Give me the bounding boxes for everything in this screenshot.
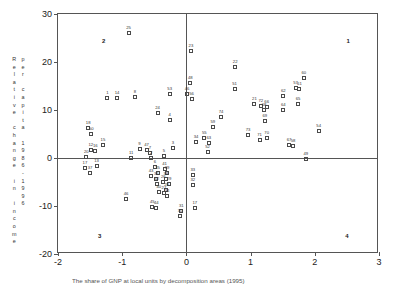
data-point-label: 21 xyxy=(252,97,257,101)
data-point xyxy=(281,94,285,98)
data-point xyxy=(168,92,172,96)
y-axis-title-char: i xyxy=(14,94,15,102)
y-axis-title-char: p xyxy=(22,56,25,64)
plot-area: -20-100102030 -2-10123 1234 252322604851… xyxy=(57,13,378,253)
y-axis-title-char: i xyxy=(14,200,15,208)
data-point-label: 40 xyxy=(156,184,161,188)
x-tick-label: 2 xyxy=(312,257,317,267)
data-point xyxy=(133,95,137,99)
y-axis-title-char: n xyxy=(13,185,16,193)
y-tick xyxy=(54,110,58,111)
data-point xyxy=(190,97,194,101)
y-axis-title-char: c xyxy=(22,86,25,94)
data-point-label: 6 xyxy=(154,160,156,164)
y-axis-title-char: 8 xyxy=(22,155,25,163)
data-point xyxy=(233,65,237,69)
data-point-label: 53 xyxy=(167,86,172,90)
data-point xyxy=(115,96,119,100)
y-axis-title: Relative change in income per capita 198… xyxy=(12,56,42,261)
data-point-label: 60 xyxy=(302,71,307,75)
quadrant-label: 4 xyxy=(345,233,348,239)
y-axis-title-col2: per capita 1986-1996 xyxy=(22,56,25,261)
data-point-label: 14 xyxy=(115,90,120,94)
y-tick xyxy=(54,62,58,63)
data-point-label: 64 xyxy=(281,103,286,107)
y-axis-title-char: t xyxy=(14,86,16,94)
data-point xyxy=(302,76,306,80)
y-axis-title-char xyxy=(14,193,16,201)
data-point xyxy=(162,154,166,158)
data-point-label: 54 xyxy=(316,124,321,128)
y-axis-title-char: a xyxy=(13,140,16,148)
y-axis-title-char: 6 xyxy=(22,200,25,208)
data-point-label: 69 xyxy=(262,113,267,117)
data-point-label: 65 xyxy=(296,97,301,101)
data-point xyxy=(206,150,210,154)
data-point-label: 32 xyxy=(190,178,195,182)
y-axis-title-char: n xyxy=(13,147,16,155)
x-tick xyxy=(122,252,123,256)
y-tick-label: 30 xyxy=(42,9,52,19)
y-axis-title-char xyxy=(22,79,24,87)
y-axis-title-char xyxy=(14,117,16,125)
y-axis-title-char: 1 xyxy=(22,140,25,148)
y-tick xyxy=(54,158,58,159)
data-point-label: 36 xyxy=(154,171,159,175)
x-tick-label: -1 xyxy=(118,257,126,267)
data-point-label: 22 xyxy=(233,60,238,64)
y-tick-label: -10 xyxy=(39,201,52,211)
data-point xyxy=(89,148,93,152)
y-axis-title-char: l xyxy=(14,71,15,79)
y-tick-label: 10 xyxy=(42,105,52,115)
data-point xyxy=(157,190,161,194)
data-point-label: 44 xyxy=(154,201,159,205)
data-point-label: 16 xyxy=(93,144,98,148)
y-axis-title-char: c xyxy=(13,124,16,132)
y-axis-title-char: r xyxy=(22,71,24,79)
data-point xyxy=(124,197,128,201)
data-point-label: 20 xyxy=(84,150,89,154)
data-point xyxy=(129,156,133,160)
data-point-label: 17 xyxy=(83,161,88,165)
x-tick-label: 0 xyxy=(184,257,189,267)
y-tick-label: 20 xyxy=(42,57,52,67)
data-point-label: 34 xyxy=(194,135,199,139)
y-axis-title-char: e xyxy=(13,162,16,170)
data-point-label: 73 xyxy=(246,128,251,132)
data-point-label: 56 xyxy=(189,92,194,96)
data-point xyxy=(95,164,99,168)
data-point-label: 58 xyxy=(291,138,296,142)
x-tick-label: -2 xyxy=(54,257,62,267)
data-point-label: 24 xyxy=(155,106,160,110)
data-point-label: 70 xyxy=(264,131,269,135)
y-axis-title-char: g xyxy=(13,155,16,163)
y-axis-title-char: e xyxy=(22,64,25,72)
data-point-label: 8 xyxy=(134,89,136,93)
data-point-label: 33 xyxy=(190,168,195,172)
data-point xyxy=(281,108,285,112)
y-tick xyxy=(54,206,58,207)
quadrant-label: 3 xyxy=(98,233,101,239)
data-point-label: 37 xyxy=(88,166,93,170)
data-point-label: 4 xyxy=(169,113,171,117)
data-point xyxy=(317,129,321,133)
data-point-label: 48 xyxy=(188,76,193,80)
data-point xyxy=(138,147,142,151)
data-point xyxy=(191,183,195,187)
y-axis-title-char: i xyxy=(22,109,23,117)
y-axis-title-char: t xyxy=(22,117,24,125)
data-point-label: 50 xyxy=(89,126,94,130)
data-point-label: 49 xyxy=(303,152,308,156)
data-point-label: 5 xyxy=(163,148,165,152)
y-tick xyxy=(54,14,58,15)
data-point xyxy=(127,31,131,35)
data-point-label: 51 xyxy=(232,82,237,86)
y-axis-title-char: 6 xyxy=(22,162,25,170)
figure-caption: The share of GNP at local units by decom… xyxy=(72,277,245,286)
y-axis-title-char: a xyxy=(22,94,25,102)
data-point xyxy=(265,136,269,140)
y-axis-title-char xyxy=(22,132,24,140)
data-point xyxy=(154,206,158,210)
data-point xyxy=(297,87,301,91)
data-point-label: 59 xyxy=(210,120,215,124)
